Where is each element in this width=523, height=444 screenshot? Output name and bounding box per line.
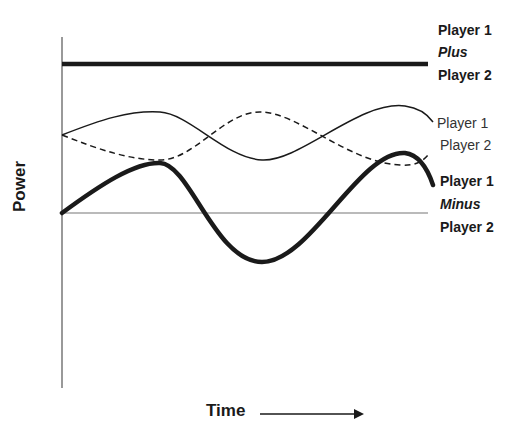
diff-label-line1: Player 1	[440, 173, 494, 190]
diff-label-line2: Minus	[440, 196, 480, 213]
player2-line	[62, 112, 428, 165]
time-arrow-head-icon	[354, 409, 364, 419]
y-axis-label: Power	[10, 161, 30, 212]
sum-label-line1: Player 1	[438, 22, 492, 39]
difference-line	[62, 153, 433, 262]
x-axis-label: Time	[206, 401, 245, 421]
diff-label-line3: Player 2	[440, 219, 494, 236]
sum-label-line2: Plus	[438, 44, 468, 61]
player2-label: Player 2	[440, 137, 491, 154]
player1-label: Player 1	[437, 115, 488, 132]
sum-label-line3: Player 2	[438, 67, 492, 84]
